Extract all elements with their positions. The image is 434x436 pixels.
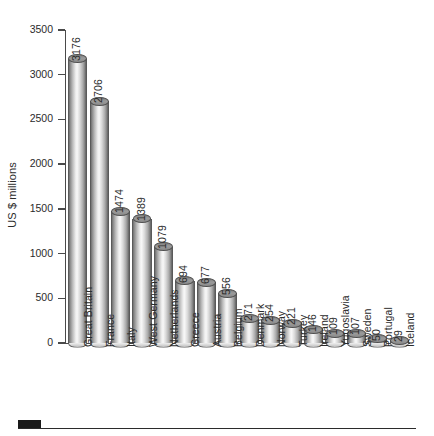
plot-area: 3176270614741389107969467755627125422114… [67, 30, 410, 343]
x-axis-category-label: Great Britain [82, 287, 94, 347]
bar-value-label: 694 [177, 265, 189, 283]
x-axis-category-label: France [104, 314, 116, 347]
x-axis-category-label: Turkey [297, 315, 309, 347]
bar-slot[interactable] [218, 30, 237, 343]
y-axis-tick-label: 3000 [13, 68, 53, 80]
y-axis-tick-label: 500 [13, 291, 53, 303]
bottom-rule [18, 428, 416, 429]
bar-value-label: 1389 [135, 197, 147, 221]
x-axis-category-label: West Germany [147, 276, 159, 347]
bar-slot[interactable] [261, 30, 280, 343]
x-axis-category-label: Denmark [254, 304, 266, 347]
bar-value-label: 677 [199, 266, 211, 284]
bar-slot[interactable] [197, 30, 216, 343]
y-axis-tick-label: 1500 [13, 202, 53, 214]
bar-value-label: 2706 [92, 79, 104, 103]
y-axis-tick [58, 74, 65, 75]
x-axis-category-label: Netherlands [168, 289, 180, 347]
y-axis-tick-label: 3500 [13, 23, 53, 35]
bar-slot[interactable] [240, 30, 259, 343]
y-axis-tick [58, 119, 65, 120]
x-axis-category-label: Yugoslavia [339, 295, 351, 347]
x-axis-category-label: Sweden [361, 308, 373, 347]
x-axis-category-label: Iceland [404, 312, 416, 347]
y-axis-tick-label: 2500 [13, 112, 53, 124]
x-axis-category-label: Belgium [232, 308, 244, 347]
x-axis-category-label: Portugal [382, 307, 394, 347]
x-axis-category-label: Italy [125, 327, 137, 347]
bar-value-label: 556 [220, 277, 232, 295]
bar-slot[interactable] [282, 30, 301, 343]
bar-value-label: 1474 [113, 189, 125, 213]
bar-slot[interactable] [111, 30, 130, 343]
bar-slot[interactable] [390, 30, 409, 343]
y-axis-tick [58, 29, 65, 30]
x-axis-category-label: Norway [275, 311, 287, 347]
y-axis-tick [58, 208, 65, 209]
y-axis-tick [58, 253, 65, 254]
y-axis-tick [58, 298, 65, 299]
bar-value-label: 1079 [156, 224, 168, 248]
y-axis-tick [58, 163, 65, 164]
y-axis-tick-label: 0 [13, 336, 53, 348]
y-axis-tick [58, 342, 65, 343]
bar-slot[interactable] [368, 30, 387, 343]
bar-slot[interactable] [304, 30, 323, 343]
bar-value-label: 3176 [70, 37, 82, 61]
x-axis-category-label: Greece [189, 312, 201, 347]
x-axis-category-label: Ireland [318, 314, 330, 347]
y-axis-tick-label: 1000 [13, 247, 53, 259]
y-axis-tick-label: 2000 [13, 157, 53, 169]
x-axis-category-label: Austria [211, 314, 223, 347]
bar-chart: US $ millions 05001000150020002500300035… [0, 0, 434, 436]
